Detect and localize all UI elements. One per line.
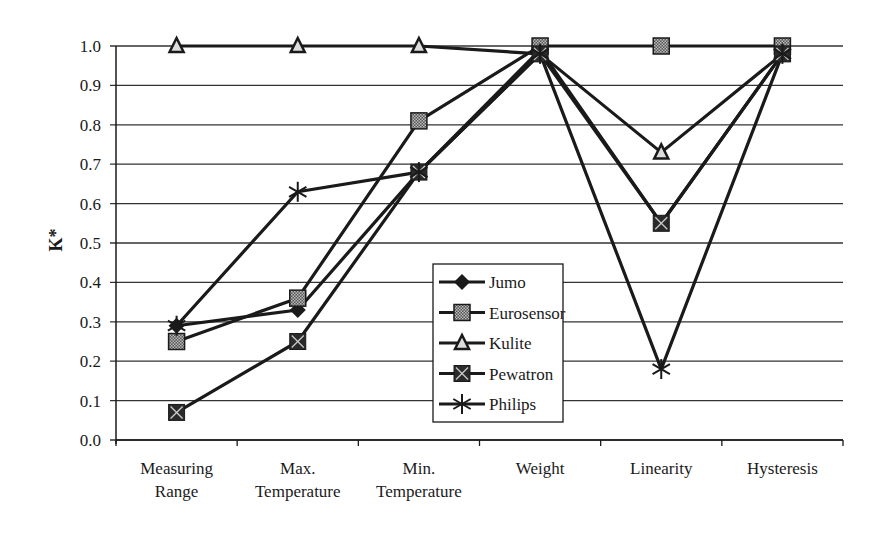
square-x-marker-icon [454,366,470,382]
square-hatched-marker-icon [411,113,427,129]
y-tick-label: 0.3 [80,313,101,332]
x-tick-label: Temperature [376,482,462,501]
y-axis-label: K* [46,228,66,251]
y-tick-label: 1.0 [80,37,101,56]
y-tick-label: 0.9 [80,76,101,95]
legend: JumoEurosensorKulitePewatronPhilips [433,264,566,422]
x-tick-label: Linearity [630,459,693,478]
x-tick-label: Temperature [255,482,341,501]
square-x-marker-icon [169,404,185,420]
asterisk-marker-icon [653,359,670,379]
square-hatched-marker-icon [454,305,470,321]
square-x-marker-icon [290,334,306,350]
x-tick-label: Hysteresis [747,459,818,478]
y-tick-label: 0.2 [80,352,101,371]
y-tick-label: 0.0 [80,431,101,450]
series-kulite [177,46,783,152]
y-tick-label: 0.7 [80,155,102,174]
markers-kulite [170,38,790,158]
x-tick-label: Min. [403,459,436,478]
y-tick-label: 0.4 [80,273,102,292]
y-tick-label: 0.8 [80,116,101,135]
square-x-marker-icon [653,215,669,231]
legend-item-eurosensor: Eurosensor [439,304,566,323]
square-hatched-marker-icon [290,290,306,306]
square-hatched-marker-icon [169,334,185,350]
x-axis-ticks: MeasuringRangeMax.TemperatureMin.Tempera… [140,459,818,501]
x-tick-label: Measuring [140,459,213,478]
legend-label: Jumo [489,273,526,292]
y-axis-ticks: 0.00.10.20.30.40.50.60.70.80.91.0 [80,37,102,450]
x-tick-label: Max. [280,459,315,478]
legend-label: Kulite [489,334,532,353]
square-hatched-marker-icon [653,38,669,54]
legend-item-pewatron: Pewatron [439,365,554,384]
x-tick-label: Range [155,482,198,501]
y-tick-label: 0.1 [80,392,101,411]
legend-label: Eurosensor [489,304,566,323]
legend-label: Pewatron [489,365,554,384]
y-tick-label: 0.5 [80,234,101,253]
line-chart: 0.00.10.20.30.40.50.60.70.80.91.0 Measur… [0,0,886,537]
x-tick-label: Weight [516,459,565,478]
legend-label: Philips [489,395,536,414]
y-tick-label: 0.6 [80,195,101,214]
